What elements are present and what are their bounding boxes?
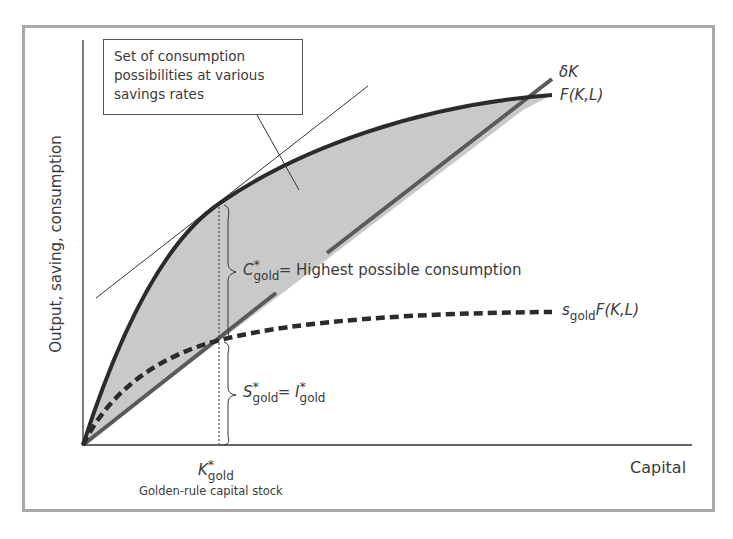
production-label-func: F bbox=[560, 86, 569, 104]
k-gold-var: K bbox=[198, 461, 208, 479]
production-label-args: (K,L) bbox=[569, 86, 604, 104]
saving-brace bbox=[224, 342, 236, 445]
k-gold-label: Kgold* bbox=[198, 461, 214, 479]
si-eq: = bbox=[278, 383, 291, 401]
saving-label-s: s bbox=[562, 301, 570, 319]
k-gold-caption: Golden-rule capital stock bbox=[139, 484, 283, 498]
depreciation-label: δK bbox=[559, 63, 578, 81]
saving-label-sub: gold bbox=[570, 309, 596, 323]
saving-investment-annotation: Sgold* = Igold* bbox=[243, 383, 306, 401]
s-gold-star: * bbox=[252, 379, 259, 394]
c-gold-var: C bbox=[243, 261, 253, 279]
production-label: F(K,L) bbox=[560, 86, 603, 104]
saving-curve-label: sgoldF(K,L) bbox=[562, 301, 639, 319]
c-gold-star: * bbox=[253, 257, 260, 272]
saving-label-args: (K,L) bbox=[604, 301, 639, 319]
consumption-annotation: Cgold* = Highest possible consumption bbox=[243, 261, 522, 279]
c-gold-eq: = bbox=[279, 261, 292, 279]
y-axis-label: Output, saving, consumption bbox=[47, 135, 65, 352]
i-gold-star: * bbox=[299, 379, 306, 394]
x-axis-label: Capital bbox=[630, 458, 686, 477]
k-gold-star: * bbox=[208, 457, 215, 472]
c-gold-text: Highest possible consumption bbox=[296, 261, 521, 279]
consumption-possibilities-callout: Set of consumption possibilities at vari… bbox=[103, 39, 303, 115]
